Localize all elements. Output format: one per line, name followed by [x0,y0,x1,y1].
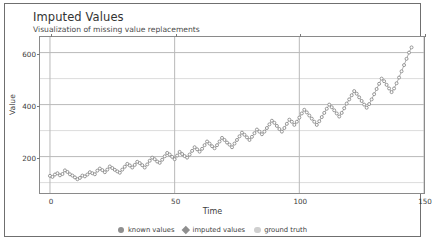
legend-circle-icon [118,227,125,234]
x-axis-tick-label: 100 [293,197,307,206]
x-axis-tick-label: 50 [171,197,180,206]
legend-item[interactable]: imputed values [183,226,245,234]
y-axis-tick-label: 200 [22,153,36,162]
legend-item[interactable]: ground truth [254,226,307,234]
x-axis-tick-mark [425,34,426,37]
series-plot [40,37,424,193]
x-axis-tick-mark [51,34,52,37]
x-axis-tick-label: 150 [418,197,432,206]
y-axis-label: Value [8,94,17,115]
chart-card: Imputed Values Visualization of missing … [4,3,421,237]
chart-legend: known valuesimputed valuesground truth [5,226,420,234]
legend-circle-icon [254,227,261,234]
x-axis-label: Time [5,207,420,216]
y-axis-tick-mark [37,54,40,55]
y-axis-tick-label: 400 [22,101,36,110]
y-axis-tick-label: 600 [22,49,36,58]
x-axis-tick-mark [300,34,301,37]
y-axis-tick-mark [37,106,40,107]
x-axis-tick-label: 0 [49,197,54,206]
page-title: Imputed Values [33,10,124,24]
x-axis-tick-mark [176,34,177,37]
page-subtitle: Visualization of missing value replaceme… [33,25,200,34]
legend-item[interactable]: known values [118,226,175,234]
y-axis-tick-mark [37,158,40,159]
legend-item-label: known values [128,226,175,234]
legend-item-label: imputed values [193,226,246,234]
legend-item-label: ground truth [264,226,307,234]
legend-diamond-icon [182,226,190,234]
plot-area: 200400600050100150 [39,36,425,194]
